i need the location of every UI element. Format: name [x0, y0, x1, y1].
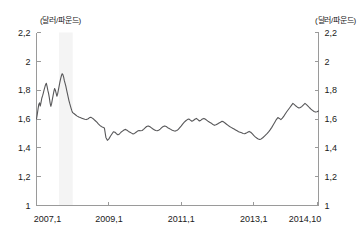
- y-axis-tick-label-left: 2,2: [18, 28, 31, 38]
- series-line-path: [37, 74, 319, 141]
- y-axis-unit-label-left: (달러/파운드): [40, 14, 81, 25]
- series-gbp-usd-line: [37, 74, 319, 141]
- y-axis-tick-label-left: 1,4: [18, 143, 31, 153]
- x-axis-tick-label: 2011,1: [168, 214, 195, 224]
- x-axis-tick-label: 2007,1: [34, 214, 62, 224]
- y-axis-tick-label-left: 2: [25, 57, 30, 67]
- x-axis-tick-label: 2014,10: [289, 214, 322, 224]
- y-axis-tick-label-left: 1,6: [18, 114, 31, 124]
- y-axis-tick-label-right: 1,2: [325, 172, 338, 182]
- chart-plot-area: 2,22,2221,81,81,61,61,41,41,21,2112007,1…: [0, 0, 360, 250]
- y-axis-tick-label-left: 1,8: [18, 85, 31, 95]
- y-axis-tick-label-right: 1,6: [325, 114, 338, 124]
- y-axis-tick-label-right: 1,8: [325, 85, 338, 95]
- x-axis-tick-label: 2013,1: [240, 214, 268, 224]
- y-axis-tick-label-right: 1,4: [325, 143, 338, 153]
- y-axis-unit-label-right: (달러/파운드): [315, 14, 356, 25]
- exchange-rate-chart: (달러/파운드) (달러/파운드) 2,22,2221,81,81,61,61,…: [0, 0, 360, 250]
- y-axis-tick-label-left: 1: [25, 201, 30, 211]
- y-axis-tick-label-left: 1,2: [18, 172, 31, 182]
- y-axis-tick-label-right: 2,2: [325, 28, 338, 38]
- y-axis-tick-label-right: 1: [325, 201, 330, 211]
- y-axis-tick-label-right: 2: [325, 57, 330, 67]
- shaded-recession-band: [59, 33, 73, 206]
- x-axis-tick-label: 2009,1: [95, 214, 123, 224]
